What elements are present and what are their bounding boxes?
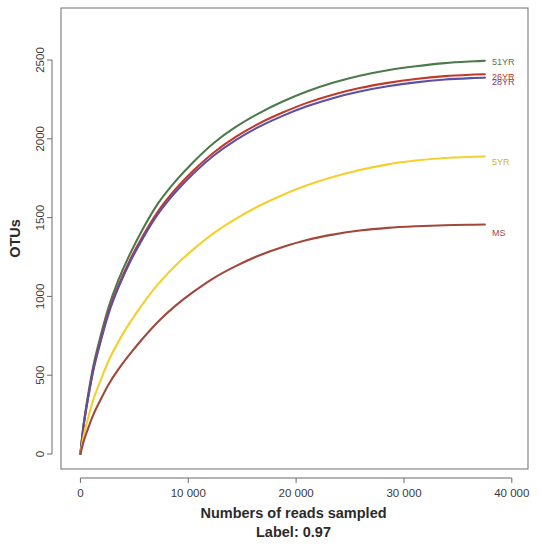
series-label-51yr: 51YR [492,57,515,67]
y-tick-label-1000: 1000 [34,284,46,310]
rarefaction-chart-figure: 010 00020 00030 00040 000050010001500200… [0,0,542,544]
y-tick-label-2500: 2500 [34,47,46,73]
y-tick-label-2000: 2000 [34,126,46,152]
x-tick-label-10000: 10 000 [171,487,206,499]
plot-background [0,0,542,544]
x-tick-label-0: 0 [77,487,83,499]
y-axis-title: OTUs [7,219,23,258]
y-tick-label-0: 0 [34,451,46,457]
y-tick-label-1500: 1500 [34,205,46,231]
series-label-5yr: 5YR [492,157,510,167]
x-tick-label-40000: 40 000 [494,487,529,499]
x-tick-label-20000: 20 000 [279,487,314,499]
x-axis-title: Numbers of reads sampled [200,505,386,521]
y-tick-label-500: 500 [34,366,46,385]
series-label-ms: MS [492,228,506,238]
x-tick-label-30000: 30 000 [386,487,421,499]
rarefaction-curve-plot: 010 00020 00030 00040 000050010001500200… [0,0,542,544]
chart-subtitle: Label: 0.97 [256,524,331,540]
series-label-28yr: 28YR [492,77,515,87]
